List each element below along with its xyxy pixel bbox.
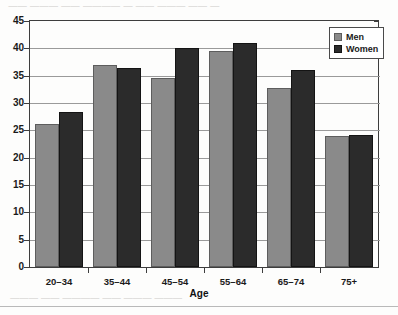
bar-women-65-74[interactable]: [291, 70, 315, 267]
y-axis-tick-label: 15: [0, 180, 24, 190]
bar-women-55-64[interactable]: [233, 43, 257, 267]
page-horizontal-rule: [0, 306, 398, 307]
x-axis-tick-mark: [146, 268, 147, 273]
y-axis-tick-label: 40: [0, 43, 24, 53]
bar-group: [267, 21, 315, 267]
y-axis-tick-mark: [24, 267, 29, 268]
chart-legend: MenWomen: [329, 27, 384, 59]
y-axis-tick-mark: [24, 76, 29, 77]
x-axis-tick-mark: [320, 268, 321, 273]
y-axis-tick-label: 25: [0, 125, 24, 135]
y-axis-tick-label: 30: [0, 98, 24, 108]
y-axis-tick-mark: [24, 185, 29, 186]
y-axis-tick-mark: [24, 21, 29, 22]
bar-group: [209, 21, 257, 267]
y-axis-tick-label: 45: [0, 16, 24, 26]
legend-swatch-women-icon: [334, 45, 342, 53]
bar-group: [93, 21, 141, 267]
bar-men-45-54[interactable]: [151, 78, 175, 267]
bar-group: [35, 21, 83, 267]
x-axis-tick-label: 35–44: [87, 276, 147, 287]
x-axis-tick-label: 65–74: [261, 276, 321, 287]
legend-label: Men: [346, 32, 364, 42]
legend-swatch-men-icon: [334, 33, 342, 41]
legend-label: Women: [346, 44, 378, 54]
y-axis-tick-mark-right: [374, 267, 379, 268]
bar-men-55-64[interactable]: [209, 51, 233, 267]
grouped-bar-chart: 454035302520151050 20–3435–4445–5455–646…: [0, 0, 398, 298]
y-axis-tick-mark: [24, 48, 29, 49]
y-axis-tick-label: 20: [0, 153, 24, 163]
y-axis-tick-mark: [24, 158, 29, 159]
x-axis-tick-mark: [204, 268, 205, 273]
y-axis-tick-mark: [24, 103, 29, 104]
y-axis-tick-label: 35: [0, 71, 24, 81]
legend-item-women[interactable]: Women: [334, 43, 378, 55]
scanned-chart-page: — —— ——— —— — ———— —— ——— —— 45403530252…: [0, 0, 398, 315]
bar-women-35-44[interactable]: [117, 68, 141, 267]
bar-men-35-44[interactable]: [93, 65, 117, 267]
bar-women-75+[interactable]: [349, 135, 373, 267]
bar-women-20-34[interactable]: [59, 112, 83, 267]
bars-layer: [30, 21, 378, 267]
y-axis-tick-mark: [24, 212, 29, 213]
y-axis-tick-label: 10: [0, 207, 24, 217]
y-axis-tick-mark: [24, 130, 29, 131]
legend-item-men[interactable]: Men: [334, 31, 378, 43]
y-axis-tick-label: 0: [0, 262, 24, 272]
x-axis-tick-label: 20–34: [29, 276, 89, 287]
x-axis-title: Age: [0, 288, 398, 299]
x-axis-tick-mark: [88, 268, 89, 273]
bar-men-75+[interactable]: [325, 136, 349, 267]
bar-men-20-34[interactable]: [35, 124, 59, 267]
y-axis-tick-label: 5: [0, 235, 24, 245]
bar-women-45-54[interactable]: [175, 48, 199, 267]
x-axis-tick-label: 45–54: [145, 276, 205, 287]
y-axis-tick-mark: [24, 240, 29, 241]
bar-group: [151, 21, 199, 267]
x-axis-tick-mark: [262, 268, 263, 273]
x-axis-tick-label: 55–64: [203, 276, 263, 287]
x-axis-tick-label: 75+: [319, 276, 379, 287]
bar-men-65-74[interactable]: [267, 88, 291, 267]
